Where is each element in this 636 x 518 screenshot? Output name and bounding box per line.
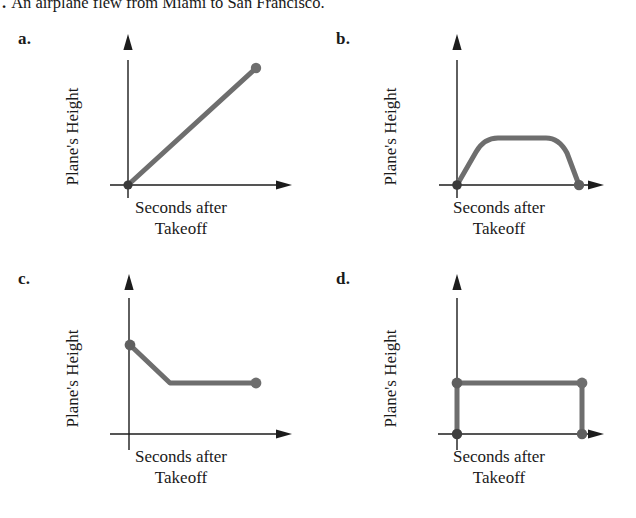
choice-panel-d[interactable]: d. Plane's Height Seconds after Takeoff — [318, 260, 636, 508]
data-point-bottom-right — [577, 429, 587, 439]
data-point-end — [574, 180, 584, 190]
graph-b — [318, 20, 636, 268]
data-point-origin — [452, 429, 462, 439]
data-point-top-right — [577, 378, 588, 389]
y-axis-arrowhead-icon — [123, 34, 132, 50]
question-text: An airplane flew from Miami to San Franc… — [6, 0, 324, 12]
data-curve-a — [128, 68, 256, 185]
y-axis-arrowhead-icon — [452, 34, 461, 50]
data-curve-b — [457, 138, 579, 185]
x-axis-arrowhead-icon — [276, 429, 292, 438]
data-curve-c — [130, 345, 256, 383]
choice-panel-c[interactable]: c. Plane's Height Seconds after Takeoff — [0, 260, 318, 508]
data-point-start — [125, 340, 136, 351]
y-axis-arrowhead-icon — [452, 274, 461, 290]
y-axis-arrowhead-icon — [124, 274, 133, 290]
x-axis-arrowhead-icon — [588, 429, 604, 438]
x-axis-arrowhead-icon — [588, 180, 604, 189]
graph-d — [318, 260, 636, 508]
data-point-start — [452, 180, 462, 190]
data-point-start — [123, 180, 132, 189]
data-point-end — [251, 378, 262, 389]
data-point-end — [251, 63, 261, 73]
data-point-top-left — [452, 378, 463, 389]
choice-panel-a[interactable]: a. Plane's Height Seconds after Takeoff — [0, 20, 318, 268]
figure-page: .An airplane flew from Miami to San Fran… — [0, 0, 636, 518]
x-axis-arrowhead-icon — [276, 180, 292, 189]
question-stem: .An airplane flew from Miami to San Fran… — [0, 0, 636, 15]
data-curve-d — [457, 383, 582, 434]
choice-panel-b[interactable]: b. Plane's Height Seconds after Takeoff — [318, 20, 636, 268]
graph-c — [0, 260, 318, 508]
graph-a — [0, 20, 318, 268]
